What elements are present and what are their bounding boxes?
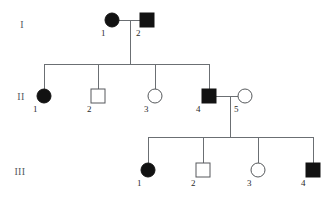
individual-number-I-1: 1 xyxy=(101,28,106,38)
generation-label-I: I xyxy=(20,19,24,30)
individual-number-III-3: 3 xyxy=(247,178,252,188)
symbol-female-affected-III-1[interactable] xyxy=(141,163,155,177)
individual-number-II-4: 4 xyxy=(196,104,201,114)
generation-labels-group: IIIIII xyxy=(14,19,25,177)
symbol-male-unaffected-II-2[interactable] xyxy=(91,89,105,103)
symbol-female-affected-II-1[interactable] xyxy=(37,89,51,103)
individual-number-III-1: 1 xyxy=(137,178,142,188)
individual-number-II-1: 1 xyxy=(33,104,38,114)
individual-symbols-group xyxy=(37,13,320,177)
individual-numbers-group: 12123451234 xyxy=(33,28,306,188)
symbol-male-affected-III-4[interactable] xyxy=(306,163,320,177)
lineage-lines-group xyxy=(44,20,313,163)
individual-number-II-2: 2 xyxy=(87,104,92,114)
symbol-female-unaffected-II-5[interactable] xyxy=(238,89,252,103)
individual-number-III-4: 4 xyxy=(301,178,306,188)
pedigree-chart: 12123451234 IIIIII xyxy=(0,0,335,205)
symbol-male-affected-II-4[interactable] xyxy=(202,89,216,103)
individual-number-I-2: 2 xyxy=(136,28,141,38)
symbol-female-affected-I-1[interactable] xyxy=(105,13,119,27)
symbol-male-affected-I-2[interactable] xyxy=(140,13,154,27)
symbol-female-unaffected-III-3[interactable] xyxy=(251,163,265,177)
symbol-male-unaffected-III-2[interactable] xyxy=(196,163,210,177)
individual-number-II-5: 5 xyxy=(234,104,239,114)
individual-number-III-2: 2 xyxy=(191,178,196,188)
generation-label-II: II xyxy=(17,91,24,102)
generation-label-III: III xyxy=(14,166,25,177)
pedigree-canvas: 12123451234 IIIIII xyxy=(0,0,335,205)
individual-number-II-3: 3 xyxy=(144,104,149,114)
symbol-female-unaffected-II-3[interactable] xyxy=(148,89,162,103)
